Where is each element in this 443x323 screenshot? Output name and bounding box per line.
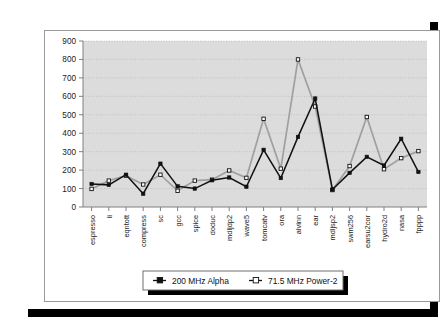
data-point[interactable] xyxy=(296,58,299,61)
data-point[interactable] xyxy=(365,155,368,158)
data-point[interactable] xyxy=(348,164,351,167)
y-axis xyxy=(79,41,83,207)
data-point[interactable] xyxy=(279,176,282,179)
x-tick-label-wave5: wave5 xyxy=(242,215,251,237)
data-point[interactable] xyxy=(193,187,196,190)
data-point[interactable] xyxy=(400,156,403,159)
y-tick-label-100: 100 xyxy=(62,185,76,194)
x-tick-label-eqntott: eqntott xyxy=(122,215,131,238)
data-point[interactable] xyxy=(159,162,162,165)
x-tick-label-alvinn: alvinn xyxy=(294,215,303,234)
x-tick-label-ora: ora xyxy=(277,214,286,226)
x-tick-label-tomcatv: tomcatv xyxy=(260,215,269,241)
data-point[interactable] xyxy=(245,185,248,188)
legend-filled-square-icon xyxy=(157,278,162,283)
screenshot-root: 0100200300400500600700800900 espressolie… xyxy=(0,0,443,323)
data-point[interactable] xyxy=(90,182,93,185)
data-point[interactable] xyxy=(159,173,162,176)
x-tick-label-mdljsp2: mdljsp2 xyxy=(328,215,337,240)
x-tick-label-espresso: espresso xyxy=(88,215,97,245)
plot-background xyxy=(83,41,427,207)
data-point[interactable] xyxy=(365,115,368,118)
y-tick-label-400: 400 xyxy=(62,129,76,138)
data-point[interactable] xyxy=(176,189,179,192)
x-tick-label-spice: spice xyxy=(191,215,200,232)
x-tick-label-fpppp: fpppp xyxy=(414,215,423,234)
data-point[interactable] xyxy=(348,171,351,174)
legend-label-1[interactable]: 71.5 MHz Power-2 xyxy=(268,276,338,286)
data-point[interactable] xyxy=(382,164,385,167)
x-tick-label-hydro2d: hydro2d xyxy=(380,215,389,242)
data-point[interactable] xyxy=(228,169,231,172)
x-tick-label-li: li xyxy=(105,215,114,219)
y-tick-label-800: 800 xyxy=(62,55,76,64)
data-point[interactable] xyxy=(279,167,282,170)
data-point[interactable] xyxy=(142,183,145,186)
plot-area xyxy=(83,41,427,207)
legend-open-square-icon xyxy=(253,278,258,283)
y-tick-label-600: 600 xyxy=(62,92,76,101)
legend-label-0[interactable]: 200 MHz Alpha xyxy=(172,276,229,286)
y-tick-label-0: 0 xyxy=(71,203,76,212)
data-point[interactable] xyxy=(296,135,299,138)
x-tick-label-swm256: swm256 xyxy=(346,215,355,243)
data-point[interactable] xyxy=(245,176,248,179)
x-axis xyxy=(83,207,427,211)
chart-legend[interactable]: 200 MHz Alpha71.5 MHz Power-2 xyxy=(143,271,348,295)
data-point[interactable] xyxy=(124,173,127,176)
data-point[interactable] xyxy=(262,148,265,151)
y-tick-label-200: 200 xyxy=(62,166,76,175)
data-point[interactable] xyxy=(400,137,403,140)
data-point[interactable] xyxy=(176,185,179,188)
y-tick-label-700: 700 xyxy=(62,74,76,83)
benchmark-line-chart[interactable]: 0100200300400500600700800900 espressolie… xyxy=(45,31,439,301)
data-point[interactable] xyxy=(417,170,420,173)
data-point[interactable] xyxy=(262,117,265,120)
data-point[interactable] xyxy=(107,183,110,186)
y-tick-label-300: 300 xyxy=(62,148,76,157)
x-tick-label-mdljdp2: mdljdp2 xyxy=(225,215,234,241)
data-point[interactable] xyxy=(107,179,110,182)
y-axis-tick-labels: 0100200300400500600700800900 xyxy=(62,37,76,212)
data-point[interactable] xyxy=(193,179,196,182)
data-point[interactable] xyxy=(382,167,385,170)
data-point[interactable] xyxy=(314,97,317,100)
data-point[interactable] xyxy=(331,188,334,191)
x-tick-label-ear: ear xyxy=(311,214,320,225)
data-point[interactable] xyxy=(228,176,231,179)
x-tick-label-earsu2cor: earsu2cor xyxy=(363,214,372,247)
data-point[interactable] xyxy=(417,149,420,152)
y-tick-label-900: 900 xyxy=(62,37,76,46)
page-card: 0100200300400500600700800900 espressolie… xyxy=(20,14,430,309)
x-tick-label-nasa: nasa xyxy=(397,214,406,231)
x-tick-label-doduc: doduc xyxy=(208,215,217,235)
data-point[interactable] xyxy=(210,179,213,182)
x-tick-label-gcc: gcc xyxy=(174,215,183,227)
data-point[interactable] xyxy=(90,187,93,190)
x-tick-label-sc: sc xyxy=(156,215,165,223)
x-axis-tick-labels: espressolieqntottcompressscgccspicedoduc… xyxy=(88,214,424,248)
y-tick-label-500: 500 xyxy=(62,111,76,120)
chart-frame: 0100200300400500600700800900 espressolie… xyxy=(44,30,440,302)
x-tick-label-compress: compress xyxy=(139,215,148,247)
data-point[interactable] xyxy=(142,192,145,195)
